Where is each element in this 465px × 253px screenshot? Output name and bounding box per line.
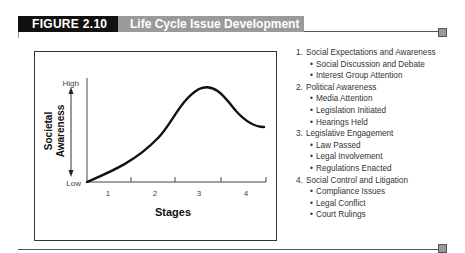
stage-item: Social Discussion and Debate <box>296 59 436 71</box>
stage-item: Hearings Held <box>296 117 436 129</box>
stage-heading: 3.Legislative Engagement <box>296 128 436 140</box>
stage-heading: 2.Political Awareness <box>296 82 436 94</box>
y-low-label: Low <box>66 179 81 188</box>
arrow-up-icon <box>69 87 74 94</box>
footer-square-icon <box>438 244 447 253</box>
arrow-down-icon <box>69 170 74 177</box>
x-tick-label: 2 <box>153 189 158 198</box>
stage-item: Legislation Initiated <box>296 105 436 117</box>
x-tick-label: 3 <box>197 189 202 198</box>
stage-list: 1.Social Expectations and Awareness Soci… <box>296 47 436 221</box>
stage-item: Legal Conflict <box>296 198 436 210</box>
stage-heading: 4.Social Control and Litigation <box>296 175 436 187</box>
stage-item: Regulations Enacted <box>296 163 436 175</box>
stage-heading: 1.Social Expectations and Awareness <box>296 47 436 59</box>
stage-item: Legal Involvement <box>296 151 436 163</box>
stage-item: Law Passed <box>296 140 436 152</box>
stage-item: Court Rulings <box>296 209 436 221</box>
y-axis-label-line1: Societal <box>43 112 54 151</box>
footer-rule <box>18 249 440 250</box>
x-tick-label: 1 <box>106 189 111 198</box>
stage-item: Compliance Issues <box>296 186 436 198</box>
y-axis-label-line2: Awareness <box>55 104 66 157</box>
x-tick-label: 4 <box>244 189 249 198</box>
stage-item: Interest Group Attention <box>296 70 436 82</box>
stage-item: Media Attention <box>296 93 436 105</box>
awareness-curve <box>87 87 264 182</box>
y-high-label: High <box>63 79 79 88</box>
x-axis-label: Stages <box>155 206 191 218</box>
